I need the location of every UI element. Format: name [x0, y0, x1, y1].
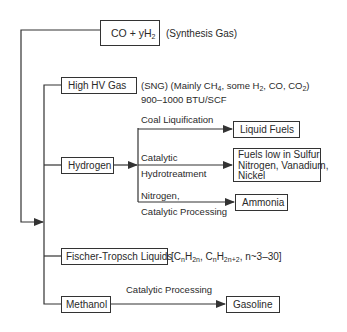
fischer-tropsch-box: Fischer-Tropsch Liquids — [61, 248, 168, 265]
low-sulfur-line-3: Nickel — [238, 171, 316, 182]
catalytic-label: Catalytic — [141, 152, 177, 163]
synthesis-gas-annotation: (Synthesis Gas) — [166, 28, 237, 39]
high-hv-gas-box: High HV Gas — [61, 77, 137, 94]
hydrogen-box: Hydrogen — [61, 157, 114, 174]
fischer-tropsch-formula: [CnH2n, CnH2n+2, n~3–30] — [171, 251, 282, 262]
nitrogen-label: Nitrogen, — [141, 190, 180, 201]
synthesis-gas-box: CO + yH2 — [100, 20, 160, 46]
btu-annotation: 900–1000 BTU/SCF — [141, 94, 227, 105]
methanol-process-label: Catalytic Processing — [126, 284, 212, 295]
liquid-fuels-box: Liquid Fuels — [233, 121, 300, 138]
gasoline-box: Gasoline — [226, 296, 280, 313]
coal-liquification-label: Coal Liquification — [141, 114, 213, 125]
low-sulfur-line-1: Fuels low in Sulfur — [238, 150, 316, 161]
catalytic-processing-label: Catalytic Processing — [141, 206, 227, 217]
ammonia-box: Ammonia — [235, 194, 288, 211]
synthesis-gas-formula: CO + yH2 — [111, 28, 155, 39]
hydrotreatment-label: Hydrotreatment — [141, 168, 206, 179]
sng-annotation: (SNG) (Mainly CH4, some H2, CO, CO2) — [141, 80, 310, 91]
methanol-box: Methanol — [61, 296, 111, 313]
low-sulfur-fuels-box: Fuels low in Sulfur Nitrogen, Vanadium, … — [233, 148, 321, 182]
